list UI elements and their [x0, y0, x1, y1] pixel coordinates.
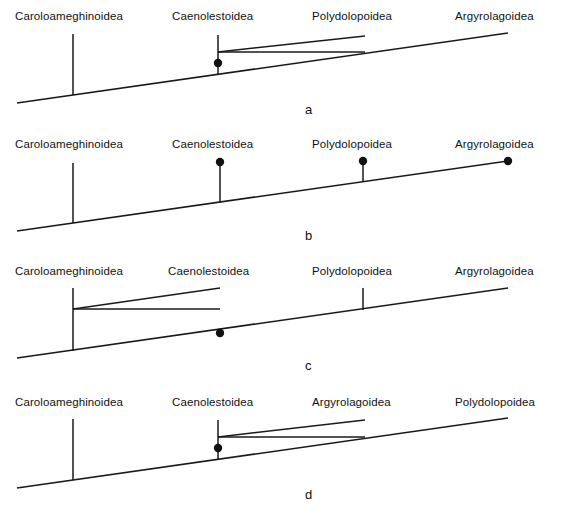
panel-a — [17, 33, 508, 103]
label-caenolestoidea-panel-c: Caenolestoidea — [168, 265, 249, 278]
panel-b — [17, 157, 512, 231]
baseline-panel-d — [17, 418, 508, 488]
label-argyrolagoidea-panel-c: Argyrolagoidea — [455, 265, 534, 278]
label-argyrolagoidea-panel-d: Argyrolagoidea — [312, 396, 391, 409]
branch-caenolestoidea-rise — [73, 288, 220, 309]
label-polydolopoidea-panel-c: Polydolopoidea — [312, 265, 392, 278]
panel-letter-c: c — [305, 358, 312, 373]
label-argyrolagoidea-panel-a: Argyrolagoidea — [455, 10, 534, 23]
label-polydolopoidea-panel-d: Polydolopoidea — [455, 396, 535, 409]
node-argyrolagoidea — [504, 157, 512, 165]
label-polydolopoidea-panel-b: Polydolopoidea — [312, 138, 392, 151]
label-argyrolagoidea-panel-b: Argyrolagoidea — [455, 138, 534, 151]
baseline-panel-b — [17, 161, 508, 231]
panel-letter-b: b — [305, 228, 312, 243]
baseline-panel-c — [17, 288, 508, 358]
node-caenolestoidea — [214, 59, 222, 67]
cladogram-canvas — [0, 0, 563, 514]
branch-argyrolagoidea-rise — [218, 420, 365, 437]
label-caenolestoidea-panel-d: Caenolestoidea — [172, 396, 253, 409]
cladogram-figure: CaroloameghinoideaCaenolestoideaPolydolo… — [0, 0, 563, 514]
panel-letter-a: a — [305, 102, 312, 117]
label-polydolopoidea-panel-a: Polydolopoidea — [312, 10, 392, 23]
label-caroloameghinoidea-panel-d: Caroloameghinoidea — [15, 396, 123, 409]
node-caenolestoidea — [216, 329, 224, 337]
label-caroloameghinoidea-panel-a: Caroloameghinoidea — [15, 10, 123, 23]
node-caenolestoidea — [216, 158, 224, 166]
baseline-panel-a — [17, 33, 508, 103]
panel-letter-d: d — [305, 487, 312, 502]
label-caroloameghinoidea-panel-c: Caroloameghinoidea — [15, 265, 123, 278]
label-caroloameghinoidea-panel-b: Caroloameghinoidea — [15, 138, 123, 151]
label-caenolestoidea-panel-a: Caenolestoidea — [172, 10, 253, 23]
panel-d — [17, 418, 508, 488]
node-polydolopoidea — [359, 157, 367, 165]
panel-c — [17, 288, 508, 358]
label-caenolestoidea-panel-b: Caenolestoidea — [172, 138, 253, 151]
node-caenolestoidea — [214, 444, 222, 452]
branch-polydolopoidea-rise — [218, 36, 365, 52]
